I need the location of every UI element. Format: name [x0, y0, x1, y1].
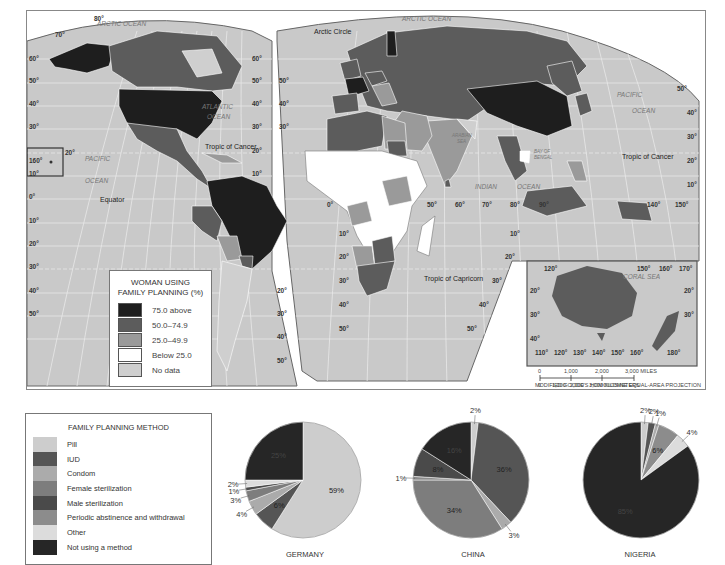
svg-text:50°: 50°	[29, 310, 39, 317]
svg-text:150°: 150°	[611, 349, 625, 356]
svg-text:160°: 160°	[659, 265, 673, 272]
pie-label: 36%	[497, 465, 512, 474]
pie-slice	[641, 435, 688, 480]
pie-slice	[413, 449, 471, 480]
pie-slice	[256, 480, 303, 529]
pie-label: 6%	[652, 446, 663, 455]
method-item-male-sterilization: Male sterilization	[33, 496, 123, 510]
pie-label: 1%	[228, 487, 239, 496]
pie-label: 85%	[618, 507, 633, 516]
svg-text:2,000: 2,000	[595, 368, 609, 374]
legend-swatch	[118, 333, 142, 347]
pie-label: 25%	[271, 451, 286, 460]
svg-text:30°: 30°	[252, 123, 262, 130]
svg-text:Arctic Circle: Arctic Circle	[314, 28, 351, 35]
svg-text:80°: 80°	[94, 15, 104, 22]
pie-slice	[583, 422, 699, 538]
svg-text:PACIFIC: PACIFIC	[617, 91, 642, 98]
svg-text:10°: 10°	[29, 170, 39, 177]
svg-text:50°: 50°	[339, 325, 349, 332]
method-swatch	[33, 437, 57, 452]
pie-label: 16%	[447, 446, 462, 455]
pie-label: 3%	[508, 531, 519, 540]
method-swatch	[33, 481, 57, 496]
svg-text:40°: 40°	[687, 109, 697, 116]
pie-slice	[641, 424, 659, 480]
svg-text:50°: 50°	[467, 325, 477, 332]
svg-text:ARABIAN: ARABIAN	[451, 133, 473, 138]
svg-text:40°: 40°	[279, 100, 289, 107]
svg-text:Tropic of Capricorn: Tropic of Capricorn	[424, 275, 483, 283]
svg-text:30°: 30°	[277, 310, 287, 317]
pie-label: 2%	[640, 406, 651, 415]
svg-text:20°: 20°	[29, 240, 39, 247]
method-item-female-sterilization: Female sterilization	[33, 481, 132, 495]
method-item-condom: Condom	[33, 466, 95, 480]
svg-text:90°: 90°	[539, 201, 549, 208]
svg-text:10°: 10°	[29, 217, 39, 224]
svg-text:0°: 0°	[29, 193, 36, 200]
svg-text:0°: 0°	[327, 201, 334, 208]
svg-text:3,000 MILES: 3,000 MILES	[625, 368, 657, 374]
legend-item-no-data: No data	[118, 363, 180, 377]
svg-text:20°: 20°	[277, 287, 287, 294]
pie-slice	[245, 480, 303, 491]
method-item-pill: Pill	[33, 437, 77, 451]
svg-text:1,000: 1,000	[564, 368, 578, 374]
pie-slice	[249, 480, 303, 514]
pie-slice	[641, 422, 655, 480]
pie-label: 2%	[228, 480, 239, 489]
pie-label: 59%	[329, 486, 344, 495]
method-item-other: Other	[33, 525, 86, 539]
svg-text:50°: 50°	[279, 77, 289, 84]
svg-text:Equator: Equator	[100, 196, 125, 204]
pie-label: 4%	[687, 428, 698, 437]
pie-slice	[471, 422, 478, 480]
pie-slice	[413, 480, 502, 538]
svg-text:50°: 50°	[427, 201, 437, 208]
svg-text:20°: 20°	[687, 157, 697, 164]
pie-slice	[245, 480, 303, 487]
svg-text:10°: 10°	[339, 230, 349, 237]
pie-label: 4%	[236, 510, 247, 519]
finland	[387, 31, 397, 56]
svg-text:30°: 30°	[492, 277, 502, 284]
svg-text:140°: 140°	[647, 201, 661, 208]
svg-text:140°: 140°	[592, 349, 606, 356]
svg-text:40°: 40°	[339, 301, 349, 308]
svg-text:50°: 50°	[277, 357, 287, 364]
svg-text:70°: 70°	[482, 201, 492, 208]
pie-label: 2%	[649, 407, 660, 416]
svg-text:120°: 120°	[554, 349, 568, 356]
svg-text:ARCTIC OCEAN: ARCTIC OCEAN	[401, 15, 451, 22]
svg-text:70°: 70°	[55, 31, 65, 38]
svg-text:PACIFIC: PACIFIC	[85, 155, 110, 162]
svg-text:50°: 50°	[252, 77, 262, 84]
cambodia	[520, 151, 530, 163]
svg-text:INDIAN: INDIAN	[475, 183, 497, 190]
pie-title-nigeria: NIGERIA	[590, 550, 690, 559]
svg-text:40°: 40°	[252, 100, 262, 107]
svg-text:20°: 20°	[65, 149, 75, 156]
pie-slice	[272, 422, 361, 538]
svg-text:60°: 60°	[455, 201, 465, 208]
svg-text:160°: 160°	[29, 157, 43, 164]
svg-text:20°: 20°	[684, 287, 694, 294]
method-swatch	[33, 466, 57, 481]
method-item-not-using: Not using a method	[33, 540, 132, 554]
svg-text:40°: 40°	[29, 287, 39, 294]
legend-item-75-above: 75.0 above	[118, 303, 192, 317]
svg-text:10°: 10°	[687, 181, 697, 188]
projection-label: MODIFIED GOODE'S HOMOLOSINE EQUAL-AREA P…	[535, 382, 701, 388]
pie-slice	[413, 476, 471, 480]
method-legend-title: FAMILY PLANNING METHOD	[26, 423, 211, 432]
svg-text:SEA: SEA	[457, 139, 466, 144]
pie-slice	[641, 422, 648, 480]
svg-text:30°: 30°	[687, 133, 697, 140]
svg-text:170°: 170°	[679, 265, 693, 272]
svg-text:20°: 20°	[530, 287, 540, 294]
legend-item-50-74: 50.0–74.9	[118, 318, 188, 332]
svg-text:0: 0	[538, 368, 541, 374]
pie-slice	[422, 422, 471, 480]
pie-label: 3%	[230, 496, 241, 505]
